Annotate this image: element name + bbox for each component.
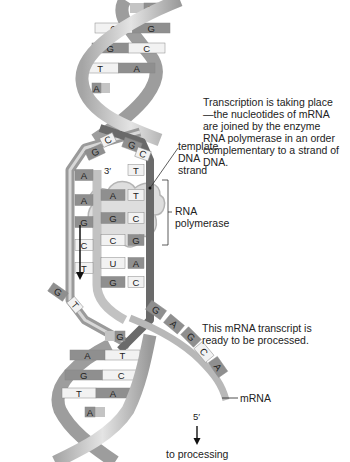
- svg-text:C: C: [118, 370, 125, 381]
- transcription-diagram: GCGGCTAA GCGCAAGCTTATGCCGUAGCGT GAGCA GA…: [0, 0, 350, 462]
- svg-text:A: A: [81, 195, 88, 206]
- svg-text:T: T: [76, 388, 82, 399]
- svg-text:C: C: [133, 213, 140, 224]
- svg-text:A: A: [110, 388, 117, 399]
- mrna-nucleotide-A: A: [164, 314, 185, 334]
- nucleotide-C: C: [129, 43, 166, 54]
- svg-text:T: T: [81, 263, 87, 274]
- svg-text:A: A: [81, 170, 88, 181]
- transcription-bubble: GCGCAAGCTTATGCCGUAGCGT: [47, 128, 164, 350]
- svg-text:G: G: [148, 23, 155, 34]
- rna-nucleotide-A: A: [101, 190, 125, 201]
- template-nucleotide-T: T: [128, 165, 144, 176]
- svg-text:C: C: [110, 235, 117, 246]
- svg-text:T: T: [97, 63, 103, 74]
- nucleotide-A: A: [92, 83, 101, 94]
- svg-text:T: T: [133, 165, 139, 176]
- svg-text:C: C: [143, 43, 150, 54]
- coding-nucleotide-A: A: [75, 195, 93, 206]
- rna-nucleotide-G: G: [101, 213, 125, 224]
- template-nucleotide-C: C: [128, 277, 144, 288]
- svg-text:G: G: [116, 331, 123, 342]
- template-nucleotide-G: G: [128, 235, 144, 246]
- svg-text:A: A: [87, 407, 94, 418]
- template-leader-line: [150, 148, 178, 188]
- rna-nucleotide-C: C: [101, 235, 125, 246]
- five-prime-label: 5′: [193, 411, 200, 422]
- template-nucleotide-T: T: [128, 190, 144, 201]
- nucleotide-T: T: [62, 388, 96, 399]
- svg-text:A: A: [93, 83, 100, 94]
- svg-text:G: G: [109, 277, 116, 288]
- template-nucleotide-A: A: [128, 258, 144, 269]
- svg-text:G: G: [132, 235, 139, 246]
- top-helix: GCGGCTAA: [82, 0, 180, 140]
- svg-text:U: U: [110, 258, 117, 269]
- rna-nucleotide-U: U: [101, 258, 125, 269]
- nucleotide-G: G: [115, 331, 125, 342]
- transcription-caption: Transcription is taking place—the nucleo…: [203, 96, 343, 168]
- svg-text:A: A: [133, 258, 140, 269]
- svg-text:C: C: [133, 277, 140, 288]
- svg-text:T: T: [133, 190, 139, 201]
- nucleotide-G: G: [65, 370, 103, 381]
- nucleotide-A: A: [85, 407, 95, 418]
- nucleotide-G: G: [47, 282, 68, 301]
- bottom-helix: GATGCTAA: [55, 331, 150, 462]
- coding-nucleotide-A: A: [75, 170, 93, 181]
- mrna-transcript-caption: This mRNA transcript is ready to be proc…: [202, 322, 322, 346]
- svg-text:G: G: [109, 213, 116, 224]
- svg-text:A: A: [134, 63, 141, 74]
- svg-text:A: A: [84, 350, 91, 361]
- nucleotide-A: A: [70, 350, 105, 361]
- nucleotide-A: A: [96, 388, 130, 399]
- nucleotide-T: T: [105, 350, 140, 361]
- rna-nucleotide-G: G: [101, 277, 125, 288]
- coding-nucleotide-C: C: [75, 240, 93, 251]
- to-processing-label: to processing: [166, 448, 228, 460]
- template-nucleotide-C: C: [128, 213, 144, 224]
- mrna-label: mRNA: [240, 392, 271, 404]
- svg-text:G: G: [80, 370, 87, 381]
- processing-arrow-head-icon: [194, 438, 201, 445]
- svg-text:C: C: [81, 240, 88, 251]
- coding-nucleotide-T: T: [75, 263, 93, 274]
- polymerase-bracket: [162, 180, 172, 245]
- coding-nucleotide-G: G: [75, 217, 93, 228]
- svg-text:A: A: [110, 190, 117, 201]
- rna-polymerase-label: RNA polymerase: [175, 205, 229, 229]
- three-prime-label: 3′: [104, 165, 111, 176]
- arrow-head-icon: [76, 272, 84, 280]
- svg-text:T: T: [120, 350, 126, 361]
- nucleotide-A: A: [119, 63, 156, 74]
- svg-text:G: G: [80, 217, 87, 228]
